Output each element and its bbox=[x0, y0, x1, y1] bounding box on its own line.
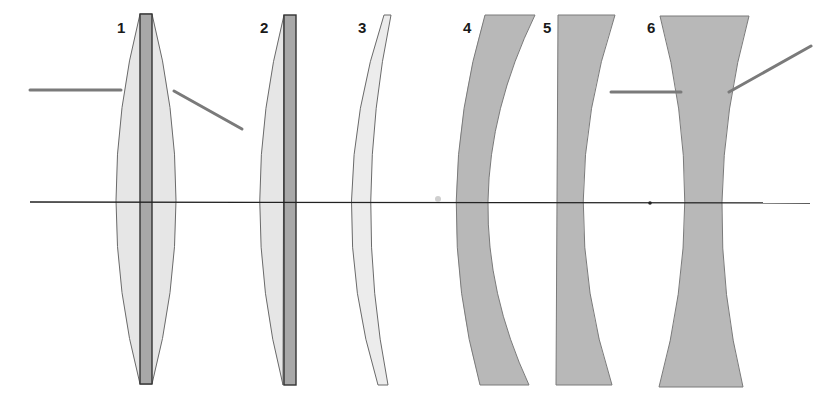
lens-label-4: 4 bbox=[463, 20, 471, 35]
lens-6 bbox=[659, 16, 749, 387]
lens-label-6: 6 bbox=[647, 20, 655, 35]
axis-dot bbox=[648, 201, 652, 205]
lens-diagram bbox=[0, 0, 837, 408]
lens-1-cement-plate bbox=[140, 14, 152, 384]
lens-2 bbox=[260, 15, 296, 385]
lens-5 bbox=[556, 15, 615, 385]
lens-label-5: 5 bbox=[543, 20, 551, 35]
lens-3 bbox=[351, 15, 391, 385]
lens-2-cement-plate bbox=[284, 15, 296, 385]
lens-4 bbox=[456, 15, 535, 385]
lens-label-3: 3 bbox=[358, 20, 366, 35]
lens-label-1: 1 bbox=[117, 20, 125, 35]
lens-1 bbox=[116, 14, 176, 384]
smudge-mark bbox=[435, 196, 441, 202]
lens-2-body bbox=[260, 15, 284, 385]
lens-label-2: 2 bbox=[260, 20, 268, 35]
